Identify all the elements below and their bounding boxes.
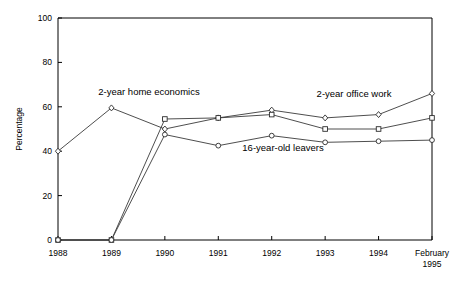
- data-point-marker: [429, 90, 434, 96]
- data-point-marker: [376, 127, 381, 132]
- y-tick-label: 20: [43, 191, 53, 201]
- data-point-marker: [216, 116, 221, 121]
- chart-canvas: 020406080100Percentage198819891990199119…: [0, 0, 467, 284]
- x-tick-label: 1994: [369, 248, 388, 258]
- series-annotation-label: 2-year office work: [317, 88, 392, 99]
- data-point-marker: [56, 238, 61, 243]
- data-point-marker: [269, 112, 274, 117]
- data-point-marker: [162, 126, 167, 132]
- data-point-marker: [163, 117, 168, 122]
- data-point-marker: [109, 105, 114, 111]
- data-point-marker: [323, 127, 328, 132]
- data-point-marker: [162, 132, 167, 137]
- series-annotation-label: 16-year-old leavers: [242, 142, 324, 153]
- x-tick-label: 1990: [155, 248, 174, 258]
- y-tick-label: 100: [38, 13, 52, 23]
- y-tick-label: 60: [43, 102, 53, 112]
- data-point-marker: [323, 115, 328, 121]
- data-point-marker: [376, 139, 381, 144]
- y-tick-label: 40: [43, 146, 53, 156]
- data-point-marker: [109, 238, 114, 243]
- data-point-marker: [430, 116, 435, 121]
- x-tick-label: 1991: [209, 248, 228, 258]
- x-tick-label: February: [415, 248, 450, 258]
- x-tick-label: 1988: [49, 248, 68, 258]
- y-tick-label: 80: [43, 57, 53, 67]
- x-tick-label-second-line: 1995: [423, 259, 442, 269]
- x-tick-label: 1992: [262, 248, 281, 258]
- y-axis-title: Percentage: [14, 107, 24, 151]
- y-tick-label: 0: [47, 235, 52, 245]
- data-point-marker: [376, 112, 381, 118]
- series-annotation-label: 2-year home economics: [98, 86, 200, 97]
- data-point-marker: [269, 133, 274, 138]
- data-point-marker: [55, 148, 60, 154]
- series-line-1: [58, 115, 432, 240]
- x-tick-label: 1993: [316, 248, 335, 258]
- line-chart: 020406080100Percentage198819891990199119…: [0, 0, 467, 284]
- x-tick-label: 1989: [102, 248, 121, 258]
- data-point-marker: [430, 138, 435, 143]
- data-point-marker: [216, 143, 221, 148]
